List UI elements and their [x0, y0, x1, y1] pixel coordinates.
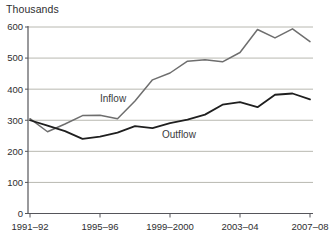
x-tick-label: 2003–04 — [222, 221, 259, 232]
y-tick-label: 600 — [7, 21, 23, 32]
y-tick-label: 400 — [7, 84, 23, 95]
chart-canvas: 01002003004005006001991–921995–961999–20… — [0, 0, 331, 242]
outflow-series-label: Outflow — [162, 129, 196, 140]
y-tick-label: 0 — [18, 208, 23, 219]
x-tick-label: 1991–92 — [12, 221, 49, 232]
y-tick-label: 100 — [7, 177, 23, 188]
y-tick-label: 500 — [7, 52, 23, 63]
inflow-series-label: Inflow — [100, 93, 126, 104]
x-tick-label: 1995–96 — [82, 221, 119, 232]
y-axis-unit-label: Thousands — [6, 3, 59, 15]
x-tick-label: 1999–2000 — [146, 221, 194, 232]
line-chart: Thousands 01002003004005006001991–921995… — [0, 0, 331, 242]
y-tick-label: 300 — [7, 115, 23, 126]
x-tick-label: 2007–08 — [292, 221, 329, 232]
inflow-line — [30, 29, 310, 132]
y-tick-label: 200 — [7, 146, 23, 157]
